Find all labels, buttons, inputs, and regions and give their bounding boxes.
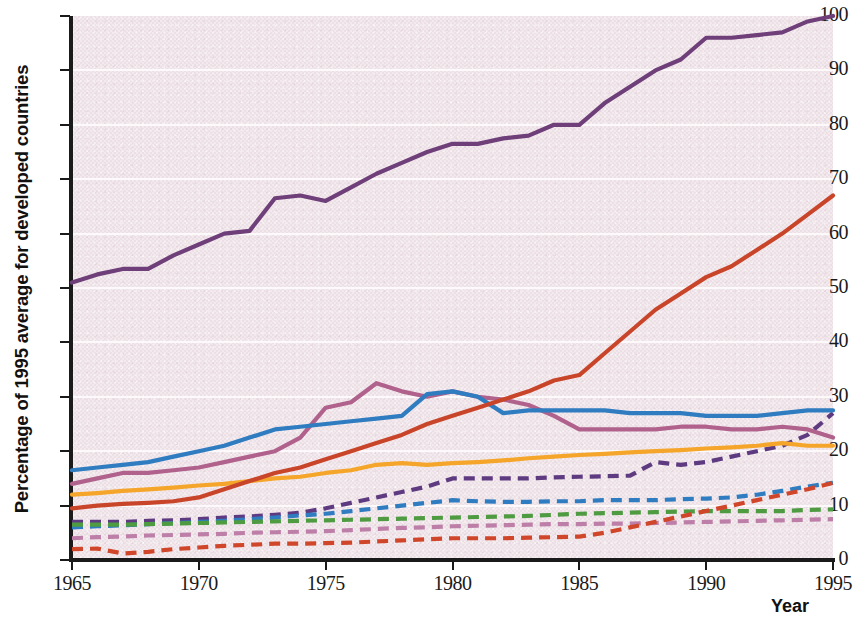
y-axis-title: Percentage of 1995 average for developed… xyxy=(11,29,33,549)
x-axis-tick xyxy=(705,560,707,570)
y-axis-tick-label: 40 xyxy=(796,329,848,352)
x-axis-tick xyxy=(325,560,327,570)
gridline xyxy=(72,233,833,235)
gridline xyxy=(72,450,833,452)
y-axis-tick-label: 0 xyxy=(796,547,848,570)
gridline xyxy=(72,287,833,289)
y-axis-tick xyxy=(60,124,70,126)
y-axis-tick xyxy=(60,505,70,507)
y-axis-tick-label: 60 xyxy=(796,221,848,244)
gridline xyxy=(72,505,833,507)
plot-area xyxy=(72,16,833,560)
y-axis-tick xyxy=(60,396,70,398)
x-axis-tick xyxy=(452,560,454,570)
x-axis-tick xyxy=(198,560,200,570)
y-axis-tick-label: 20 xyxy=(796,438,848,461)
x-axis-tick xyxy=(578,560,580,570)
gridline xyxy=(72,178,833,180)
gridline xyxy=(72,396,833,398)
y-axis-tick xyxy=(60,559,70,561)
x-axis-tick-label: 1980 xyxy=(413,572,493,595)
y-axis-tick-label: 50 xyxy=(796,275,848,298)
y-axis-tick-label: 80 xyxy=(796,112,848,135)
gridline xyxy=(72,69,833,71)
y-axis-tick xyxy=(60,15,70,17)
x-axis-tick-label: 1975 xyxy=(286,572,366,595)
x-axis-tick xyxy=(71,560,73,570)
gridline xyxy=(72,341,833,343)
y-axis-tick xyxy=(60,178,70,180)
y-axis-tick-label: 90 xyxy=(796,57,848,80)
x-axis-tick xyxy=(832,560,834,570)
y-axis-tick-label: 10 xyxy=(796,493,848,516)
y-axis-tick-label: 70 xyxy=(796,166,848,189)
y-axis-tick xyxy=(60,450,70,452)
y-axis-line xyxy=(69,16,73,562)
y-axis-tick xyxy=(60,69,70,71)
x-axis-title: Year xyxy=(745,596,835,617)
y-axis-tick xyxy=(60,287,70,289)
y-axis-tick-label: 100 xyxy=(796,3,848,26)
x-axis-tick-label: 1985 xyxy=(539,572,619,595)
x-axis-tick-label: 1970 xyxy=(159,572,239,595)
gridline xyxy=(72,124,833,126)
y-axis-tick xyxy=(60,341,70,343)
y-axis-tick-label: 30 xyxy=(796,384,848,407)
x-axis-tick-label: 1995 xyxy=(793,572,857,595)
x-axis-tick-label: 1965 xyxy=(32,572,112,595)
y-axis-tick xyxy=(60,233,70,235)
x-axis-tick-label: 1990 xyxy=(666,572,746,595)
